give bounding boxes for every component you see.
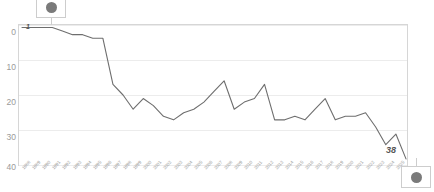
chart-title bbox=[60, 0, 380, 7]
y-tick-40: 40 bbox=[0, 163, 16, 171]
y-tick-30: 30 bbox=[0, 133, 16, 141]
top-circle-marker-badge[interactable] bbox=[36, 0, 66, 18]
bottom-circle-marker-badge[interactable] bbox=[401, 166, 431, 188]
y-tick-20: 20 bbox=[0, 98, 16, 106]
series-line bbox=[22, 28, 406, 159]
data-series-layer bbox=[18, 24, 408, 166]
line-chart: 0 10 20 30 40 1 38 198819891990199119921… bbox=[0, 0, 434, 192]
circle-marker-icon bbox=[46, 2, 57, 13]
bottom-badge-connector bbox=[416, 158, 417, 167]
y-tick-0: 0 bbox=[0, 28, 16, 36]
last-point-label: 38 bbox=[386, 145, 396, 155]
top-badge-connector bbox=[51, 18, 52, 25]
circle-marker-icon bbox=[411, 172, 422, 183]
first-point-label: 1 bbox=[26, 23, 30, 30]
y-tick-10: 10 bbox=[0, 63, 16, 71]
x-axis-labels: 1988198919901991199219931994199519961997… bbox=[18, 167, 408, 192]
